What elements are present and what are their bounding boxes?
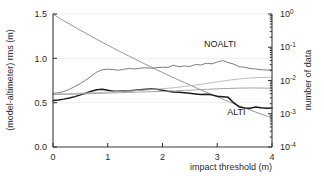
x-tick-label: 0 [50, 152, 55, 162]
left-tick-label: 0.0 [34, 142, 47, 152]
rms-vs-impact-threshold-chart: 01234 0.00.51.01.5 10010-110-210-310-4 N… [0, 0, 324, 184]
x-axis-ticks: 01234 [50, 143, 274, 162]
left-axis-ticks: 0.00.51.01.5 [34, 9, 57, 152]
x-tick-label: 1 [105, 152, 110, 162]
left-tick-label: 1.0 [34, 54, 47, 64]
right-tick-label: 10-3 [280, 108, 296, 119]
left-tick-label: 1.5 [34, 9, 47, 19]
chart-figure: 01234 0.00.51.01.5 10010-110-210-310-4 N… [0, 0, 324, 184]
right-tick-label: 10-2 [280, 74, 296, 85]
right-axis-label: number of data [303, 50, 313, 111]
gridlines [53, 14, 272, 103]
x-tick-label: 3 [215, 152, 220, 162]
x-tick-label: 2 [160, 152, 165, 162]
right-tick-label: 10-1 [280, 41, 296, 52]
series-annotation-alti: ALTI [227, 107, 245, 117]
x-tick-label: 4 [269, 152, 274, 162]
left-axis-label: (model-altimeter) rms (m) [5, 29, 15, 131]
series-annotation-noalti: NOALTI [204, 39, 236, 49]
right-tick-label: 10-4 [280, 141, 296, 152]
x-axis-label: impact threshold (m) [190, 162, 272, 172]
right-tick-label: 100 [280, 8, 294, 19]
series-annotations: NOALTIALTI [204, 39, 246, 117]
left-tick-label: 0.5 [34, 98, 47, 108]
